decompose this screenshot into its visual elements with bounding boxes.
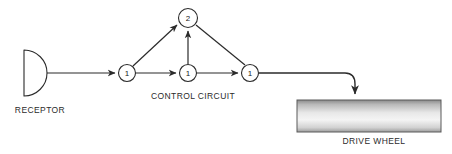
node-2-label: 2 <box>186 14 191 23</box>
receptor-caption: RECEPTOR <box>15 105 65 115</box>
node-1b[interactable]: 1 <box>180 65 197 82</box>
control-circuit-diagram: 1 1 1 2 RECEPTOR CONTROL CIRCUIT DRIVE W… <box>0 0 452 154</box>
receptor-shape <box>24 50 47 96</box>
control-circuit-caption: CONTROL CIRCUIT <box>151 91 235 101</box>
node-1b-label: 1 <box>186 69 191 78</box>
node-1c-label: 1 <box>248 69 253 78</box>
node-1a[interactable]: 1 <box>119 65 136 82</box>
drive-wheel-caption: DRIVE WHEEL <box>343 136 406 146</box>
node-1a-label: 1 <box>125 69 130 78</box>
node-2[interactable]: 2 <box>179 9 198 28</box>
edge-node1c-to-drive-wheel <box>259 73 355 94</box>
diagram-canvas: 1 1 1 2 RECEPTOR CONTROL CIRCUIT DRIVE W… <box>0 0 452 154</box>
node-1c[interactable]: 1 <box>242 65 259 82</box>
edge-node1a-to-node2 <box>133 25 177 66</box>
edge-node1c-to-node2 <box>196 25 245 65</box>
drive-wheel-shape <box>297 100 441 132</box>
